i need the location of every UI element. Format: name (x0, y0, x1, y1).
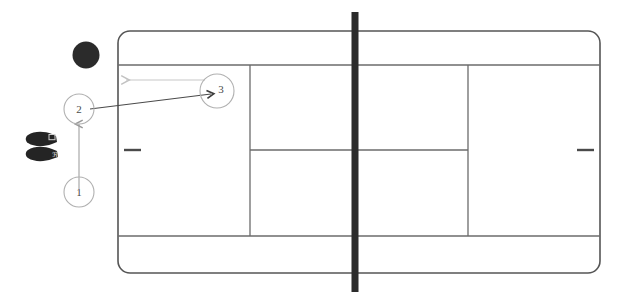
diagram-canvas: ℜ 1 2 (0, 0, 632, 305)
ball (73, 42, 100, 69)
tennis-court-diagram: ℜ 1 2 (0, 0, 632, 305)
court-outer-boundary (118, 31, 600, 273)
shoe-lower-icon: ℜ (26, 147, 58, 161)
tennis-net (352, 12, 359, 292)
marker-2[interactable]: 2 (64, 94, 94, 124)
marker-2-label: 2 (76, 103, 82, 115)
marker-1-label: 1 (76, 186, 82, 198)
marker-3-label: 3 (218, 83, 224, 95)
svg-text:ℜ: ℜ (52, 151, 58, 158)
shoe-upper-icon (26, 132, 57, 146)
